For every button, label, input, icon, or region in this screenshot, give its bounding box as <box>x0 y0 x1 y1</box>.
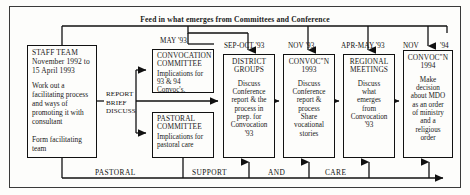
date-label-apr-may-93: APR-MAY '93 <box>341 42 385 50</box>
date-label-sep-oct-93: SEP-OCT '93 <box>224 42 264 50</box>
date-label-nov-94-left: NOV <box>403 42 419 50</box>
node-staff-team: STAFF TEAM November 1992 to 15 April 199… <box>27 45 97 158</box>
node-regional-meetings-title: REGIONAL MEETINGS <box>346 58 392 75</box>
date-label-nov-94-right: '94 <box>440 42 449 50</box>
node-district-groups-title: DISTRICT GROUPS <box>226 58 272 75</box>
node-convocation-1994: CONVOC"N 1994 Make decision about MDO as… <box>403 50 453 158</box>
date-label-may-93: MAY '93 <box>160 37 187 45</box>
node-convocation-1993-body: CONVOC"N 1993 Discuss Conference report … <box>284 55 334 141</box>
flowchart-diagram: Feed in what emerges from Committees and… <box>0 0 470 195</box>
node-pastoral-committee-body: PASTORAL COMMITTEE Implications for past… <box>153 113 213 151</box>
node-convocation-committee-description: Implications for 93 & 94 Convoc's. <box>157 70 210 93</box>
bottom-label-support: SUPPORT <box>192 168 227 177</box>
node-convocation-1994-description: Make decision about MDO as an order of m… <box>406 76 450 142</box>
node-pastoral-committee-description: Implications for pastoral care <box>157 133 210 150</box>
node-district-groups-description: Discuss Conference report & the process … <box>226 80 272 138</box>
banner-feed-in-label: Feed in what emerges from Committees and… <box>0 15 470 24</box>
node-district-groups: DISTRICT GROUPS Discuss Conference repor… <box>223 54 275 158</box>
node-convocation-1993: CONVOC"N 1993 Discuss Conference report … <box>283 54 335 158</box>
edge-label-report-brief-discuss: REPORT BRIEF DISCUSS <box>106 90 150 116</box>
node-staff-team-body: STAFF TEAM November 1992 to 15 April 199… <box>28 46 96 155</box>
node-convocation-committee: CONVOCATION COMMITTEE Implications for 9… <box>152 49 214 93</box>
node-convocation-committee-title: CONVOCATION COMMITTEE <box>157 52 210 69</box>
node-convocation-committee-body: CONVOCATION COMMITTEE Implications for 9… <box>153 50 213 93</box>
node-convocation-1994-title: CONVOC"N 1994 <box>406 54 450 71</box>
node-regional-meetings: REGIONAL MEETINGS Discuss what emerges f… <box>343 54 395 158</box>
node-pastoral-committee: PASTORAL COMMITTEE Implications for past… <box>152 112 214 158</box>
date-label-nov-93: NOV '93 <box>288 42 314 50</box>
node-convocation-1993-title: CONVOC"N 1993 <box>286 58 332 75</box>
node-staff-team-title: STAFF TEAM November 1992 to 15 April 199… <box>32 48 93 75</box>
node-pastoral-committee-title: PASTORAL COMMITTEE <box>157 115 210 132</box>
node-convocation-1994-body: CONVOC"N 1994 Make decision about MDO as… <box>404 51 452 145</box>
bottom-label-pastoral: PASTORAL <box>95 168 136 177</box>
node-regional-meetings-description: Discuss what emerges from Convocation '9… <box>346 80 392 130</box>
node-regional-meetings-body: REGIONAL MEETINGS Discuss what emerges f… <box>344 55 394 133</box>
node-staff-team-description: Work out a facilitating process and ways… <box>32 81 93 153</box>
bottom-label-care: CARE <box>325 168 346 177</box>
node-convocation-1993-description: Discuss Conference report & process Shar… <box>286 80 332 138</box>
node-district-groups-body: DISTRICT GROUPS Discuss Conference repor… <box>224 55 274 141</box>
bottom-label-and: AND <box>268 168 285 177</box>
